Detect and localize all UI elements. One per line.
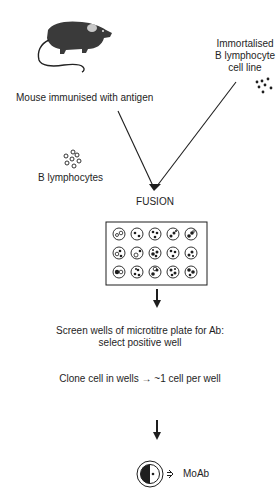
cell-line-label-line-1: Immortalised: [208, 38, 280, 50]
b-lymphocytes-label: B lymphocytes: [38, 172, 103, 184]
diagram-canvas: [0, 0, 280, 497]
mouse-label: Mouse immunised with antigen: [16, 92, 153, 104]
down-arrow-icon: [153, 289, 161, 308]
cell-cluster-icon: [256, 78, 273, 94]
screen-label: Screen wells of microtitre plate for Ab:…: [20, 325, 260, 349]
lymphocyte-cluster-icon: [64, 150, 81, 168]
screen-label-line-2: select positive well: [20, 337, 260, 349]
hybridoma-cell-icon: [137, 461, 163, 487]
cell-line-label: Immortalised B lymphocyte cell line: [208, 38, 280, 74]
fusion-arrowhead: [149, 184, 161, 191]
secretion-arrow-icon: [167, 470, 173, 478]
moab-label: MoAb: [183, 468, 209, 480]
microtitre-plate-icon: [106, 222, 207, 285]
clone-label: Clone cell in wells → ~1 cell per well: [20, 373, 260, 385]
screen-label-line-1: Screen wells of microtitre plate for Ab:: [20, 325, 260, 337]
fusion-label: FUSION: [120, 196, 190, 208]
cell-line-label-line-3: cell line: [208, 62, 280, 74]
mouse-icon: [38, 21, 112, 72]
cell-line-label-line-2: B lymphocyte: [208, 50, 280, 62]
down-arrow-icon: [153, 420, 161, 440]
